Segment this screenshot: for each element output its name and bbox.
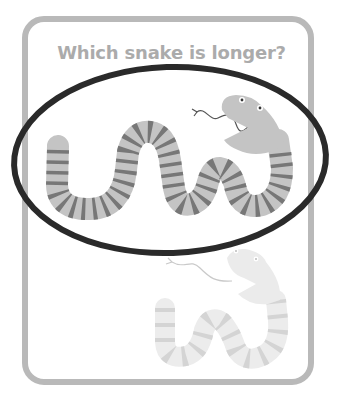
tongue-icon (166, 258, 232, 281)
snake-long[interactable] (57, 95, 284, 209)
snake-head (222, 95, 284, 154)
snake-illustration (0, 0, 343, 403)
snake-short[interactable] (165, 249, 280, 359)
snake-head (227, 249, 280, 304)
